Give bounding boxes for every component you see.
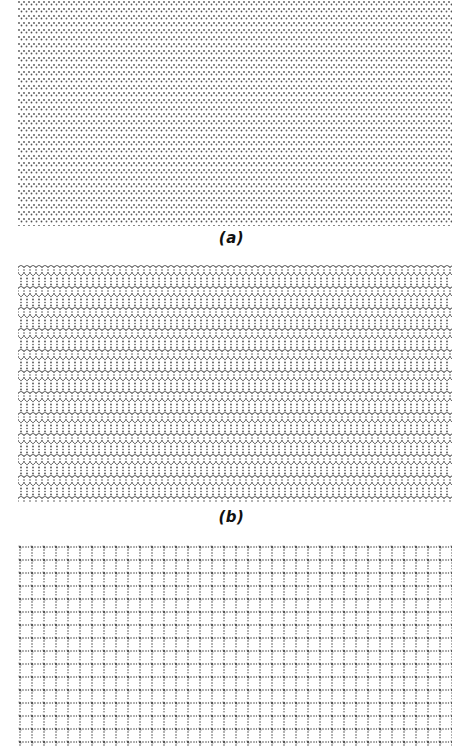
panel-c-square-lattice [18, 545, 452, 746]
panel-b-label: (b) [0, 508, 463, 526]
panel-a-zigzag-lattice [18, 0, 452, 226]
panel-b-honeycomb-lattice [18, 265, 452, 503]
panel-a-label: (a) [0, 229, 463, 247]
